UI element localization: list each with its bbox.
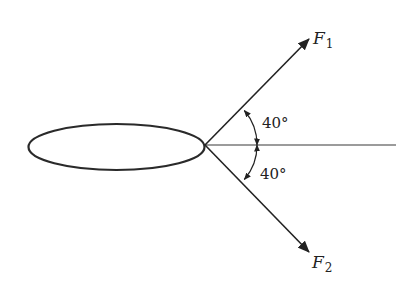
force-f1-arrow: [205, 39, 309, 145]
force-f2-arrow: [205, 145, 309, 252]
angle-label-lower: 40°: [260, 165, 287, 183]
angle-arc-lower: [244, 145, 257, 180]
force-diagram: F1 F2 40° 40°: [0, 0, 420, 289]
body-ellipse: [29, 124, 205, 170]
force-f2-label: F2: [311, 252, 332, 275]
angle-label-upper: 40°: [262, 114, 289, 132]
angle-arc-upper: [244, 111, 257, 146]
force-f1-label: F1: [312, 28, 333, 51]
